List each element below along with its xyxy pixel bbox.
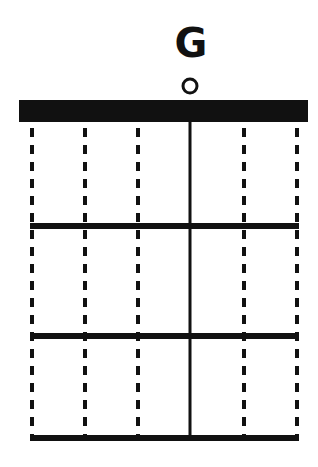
- strings: [32, 122, 297, 440]
- open-string-icon: [183, 79, 197, 93]
- open-string-markers: [183, 79, 197, 93]
- frets: [30, 223, 299, 441]
- fret-2: [30, 333, 299, 339]
- chord-name: G: [175, 20, 208, 66]
- fret-1: [30, 223, 299, 229]
- chord-diagram: G: [0, 0, 318, 467]
- nut: [19, 100, 308, 122]
- fret-3: [30, 435, 299, 441]
